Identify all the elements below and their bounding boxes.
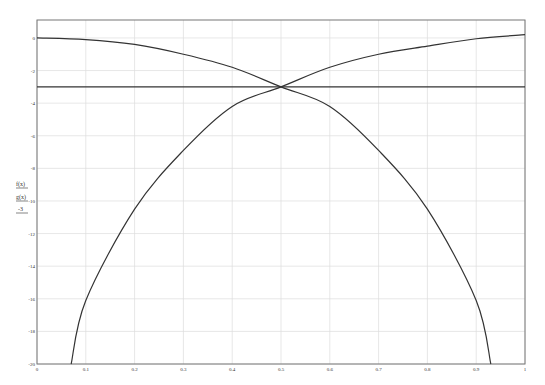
y-tick-label: -10 (28, 199, 35, 204)
x-tick-label: 0.4 (229, 367, 236, 372)
x-axis-ticks: 00.10.20.30.40.50.60.70.80.91 (36, 367, 527, 372)
y-axis-ticks: 0-2-4-6-8-10-12-14-16-18-20 (28, 36, 35, 367)
x-tick-label: 0 (36, 367, 39, 372)
y-tick-label: -14 (28, 264, 35, 269)
legend-item-f: f(x) (16, 181, 25, 188)
y-tick-label: -2 (31, 69, 36, 74)
y-tick-label: -12 (28, 232, 35, 237)
series-line-1 (71, 35, 525, 364)
y-tick-label: -6 (31, 134, 36, 139)
x-tick-label: 0.3 (180, 367, 187, 372)
x-tick-label: 0.2 (131, 367, 138, 372)
x-tick-label: 0.5 (278, 367, 285, 372)
x-tick-label: 0.8 (424, 367, 431, 372)
y-tick-label: -8 (31, 166, 36, 171)
y-tick-label: 0 (33, 36, 36, 41)
legend: f(x) g(x) -3 (16, 181, 28, 213)
y-tick-label: -16 (28, 297, 35, 302)
grid-lines (37, 20, 525, 364)
x-tick-label: 0.9 (473, 367, 480, 372)
y-tick-label: -18 (28, 329, 35, 334)
x-tick-label: 1 (524, 367, 527, 372)
y-tick-label: -20 (28, 362, 35, 367)
y-tick-label: -4 (31, 101, 36, 106)
line-chart: 00.10.20.30.40.50.60.70.80.91 0-2-4-6-8-… (0, 0, 545, 385)
legend-item-g: g(x) (16, 194, 26, 201)
x-tick-label: 0.7 (375, 367, 382, 372)
x-tick-label: 0.6 (327, 367, 334, 372)
x-tick-label: 0.1 (83, 367, 90, 372)
legend-item-minus3: -3 (18, 206, 23, 212)
